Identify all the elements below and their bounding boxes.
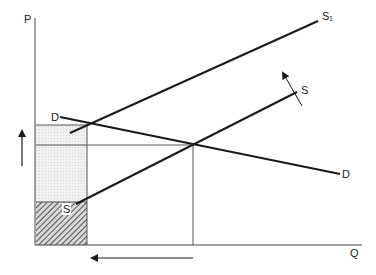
supply-shifted-curve [70,21,318,133]
light-shaded-region [36,125,87,202]
supply-demand-diagram [0,0,376,275]
supply-shifted-label: S₁ [322,11,333,22]
supply-label: S [301,85,308,96]
x-axis-label: Q [350,248,359,259]
supply-shift-arrow [283,73,302,106]
y-axis-label: P [24,14,31,25]
demand-label-left: D [51,112,59,123]
supply-curve [76,92,297,204]
demand-label-right: D [342,169,350,180]
supply-start-label: S [62,203,71,215]
